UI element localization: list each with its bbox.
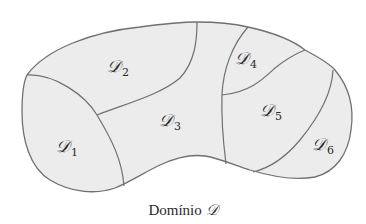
region-label-d1: 𝒟1 — [56, 138, 78, 158]
diagram-caption: Domínio 𝒟 — [148, 201, 217, 219]
region-label-d3: 𝒟3 — [159, 112, 181, 132]
region-label-d4: 𝒟4 — [235, 50, 257, 70]
caption-symbol: 𝒟 — [206, 201, 218, 219]
region-label-d6: 𝒟6 — [312, 136, 334, 156]
domain-diagram: 𝒟1 𝒟2 𝒟3 𝒟4 𝒟5 𝒟6 Domínio 𝒟 — [0, 0, 366, 224]
domain-shape — [0, 0, 366, 224]
region-label-d2: 𝒟2 — [107, 58, 129, 78]
caption-text: Domínio — [148, 202, 201, 218]
region-label-d5: 𝒟5 — [260, 102, 282, 122]
